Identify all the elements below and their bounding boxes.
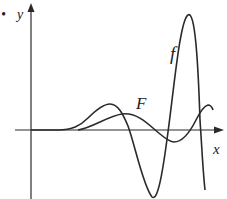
x-axis-arrow-icon (214, 127, 224, 134)
curve-f (31, 15, 205, 198)
y-axis-arrow-icon (28, 3, 35, 12)
graph-figure: • y x f F (0, 0, 227, 199)
y-axis-label: y (15, 7, 24, 22)
bullet-marker: • (1, 7, 6, 22)
x-axis-label: x (212, 141, 220, 157)
curve-F-label: F (135, 94, 147, 113)
